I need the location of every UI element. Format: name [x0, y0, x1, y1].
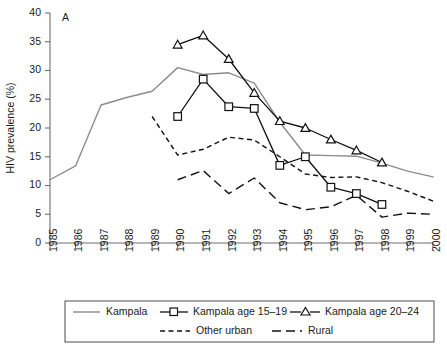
- legend-entry-kampala-20-24: Kampala age 20–24: [290, 305, 419, 317]
- x-tick-label: 1992: [226, 228, 238, 252]
- chart-figure: 0 5 10 15 20 25 30 35 40 HIV prevalence …: [0, 0, 447, 350]
- x-tick-label: 1990: [174, 228, 186, 252]
- series-markers-kampala-15-19: [174, 75, 386, 208]
- x-tick-label: 1989: [149, 228, 161, 252]
- x-tick-label: 1991: [200, 228, 212, 252]
- legend-swatch-square-icon: [170, 308, 178, 316]
- y-tick-label: 30: [29, 63, 41, 75]
- data-point-square: [199, 75, 207, 83]
- x-tick-label: 1985: [47, 228, 59, 252]
- data-point-square: [250, 105, 258, 113]
- y-ticks: [45, 13, 50, 243]
- x-tick-label: 1986: [72, 228, 84, 252]
- data-point-square: [302, 153, 310, 161]
- series-line-kampala: [50, 68, 433, 180]
- legend-label-rural: Rural: [308, 324, 333, 336]
- data-point-square: [174, 113, 182, 121]
- data-point-triangle: [326, 135, 335, 143]
- legend-entry-other-urban: Other urban: [160, 324, 252, 336]
- data-point-square: [327, 183, 335, 191]
- x-tick-label: 1996: [328, 228, 340, 252]
- legend-label-kampala-15-19: Kampala age 15–19: [193, 305, 287, 317]
- y-tick-label: 40: [29, 6, 41, 18]
- x-tick-label: 1995: [302, 228, 314, 252]
- legend-label-kampala: Kampala: [106, 305, 148, 317]
- data-point-square: [378, 201, 386, 209]
- data-point-triangle: [352, 146, 361, 154]
- series-markers-kampala-20-24: [173, 31, 386, 166]
- x-tick-label: 1988: [123, 228, 135, 252]
- y-tick-label: 0: [35, 236, 41, 248]
- y-tick-labels: 0 5 10 15 20 25 30 35 40: [29, 6, 41, 248]
- legend-entry-kampala: Kampala: [73, 305, 148, 317]
- x-tick-label: 1998: [379, 228, 391, 252]
- data-point-triangle: [199, 31, 208, 39]
- y-tick-label: 5: [35, 207, 41, 219]
- x-tick-label: 1994: [277, 228, 289, 252]
- legend-entry-rural: Rural: [272, 324, 333, 336]
- y-tick-label: 10: [29, 178, 41, 190]
- data-point-square: [353, 190, 361, 198]
- x-tick-labels: 1985198619871988198919901991199219931994…: [47, 228, 442, 252]
- legend-entry-kampala-15-19: Kampala age 15–19: [160, 305, 287, 317]
- y-tick-label: 15: [29, 150, 41, 162]
- x-tick-label: 1997: [353, 228, 365, 252]
- series-line-kampala-20-24: [178, 35, 382, 162]
- panel-label: A: [62, 11, 69, 23]
- data-point-square: [276, 162, 284, 170]
- legend-swatch-triangle-icon: [301, 308, 310, 316]
- y-axis-title: HIV prevalence (%): [4, 82, 16, 173]
- series-line-rural: [178, 171, 433, 218]
- data-point-square: [225, 103, 233, 111]
- y-tick-label: 35: [29, 35, 41, 47]
- series-line-kampala-15-19: [178, 79, 382, 204]
- legend-label-kampala-20-24: Kampala age 20–24: [325, 305, 419, 317]
- series-line-other-urban: [152, 117, 433, 202]
- chart-svg: 0 5 10 15 20 25 30 35 40 HIV prevalence …: [0, 0, 447, 350]
- x-tick-label: 1987: [98, 228, 110, 252]
- x-tick-label: 1993: [251, 228, 263, 252]
- legend-label-other-urban: Other urban: [196, 324, 252, 336]
- y-tick-label: 25: [29, 92, 41, 104]
- y-tick-label: 20: [29, 121, 41, 133]
- x-tick-label: 1999: [404, 228, 416, 252]
- x-tick-label: 2000: [430, 228, 442, 252]
